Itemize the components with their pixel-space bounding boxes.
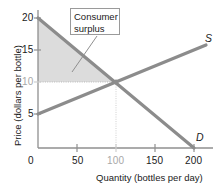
callout-line-1: Consumer <box>74 11 118 22</box>
supply-curve-label: S <box>205 32 212 44</box>
equilibrium-point <box>114 80 119 85</box>
x-tick-label-150: 150 <box>146 155 163 166</box>
supply-demand-chart: 20 15 10 5 0 50 100 150 200 Price (dolla… <box>0 0 217 188</box>
demand-curve-label: D <box>196 131 204 143</box>
consumer-surplus-callout-text: Consumer surplus <box>74 11 120 34</box>
consumer-surplus-callout-box: Consumer surplus <box>70 8 120 35</box>
x-axis-title: Quantity (bottles per day) <box>96 172 203 183</box>
y-axis-title: Price (dollars per bottle) <box>12 45 23 146</box>
x-tick-label-100: 100 <box>107 155 124 166</box>
x-tick-label-200: 200 <box>185 155 202 166</box>
y-tick-label-5: 5 <box>28 108 34 119</box>
callout-line-2: surplus <box>74 23 105 34</box>
y-tick-label-10: 10 <box>22 76 34 87</box>
y-tick-label-20: 20 <box>22 12 34 23</box>
x-tick-label-50: 50 <box>72 155 84 166</box>
y-tick-label-15: 15 <box>22 44 34 55</box>
y-tick-label-0: 0 <box>28 155 34 166</box>
